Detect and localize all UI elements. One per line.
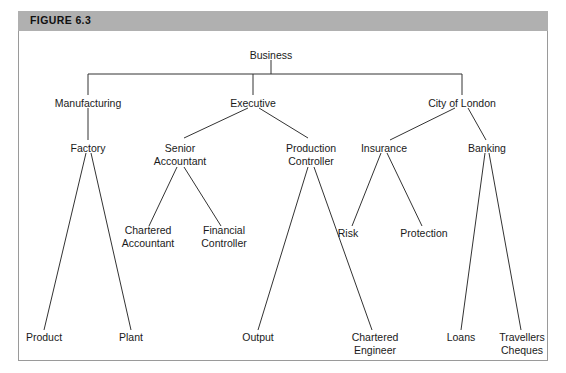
edge-city-to-insurance <box>390 108 455 140</box>
edge-banking-to-travellers-cheques <box>489 153 521 330</box>
node-plant: Plant <box>119 331 143 343</box>
nodes-group: Business Manufacturing Executive City of… <box>26 49 545 356</box>
node-senior-accountant-line2: Accountant <box>154 155 207 167</box>
node-travellers-cheques-line1: Travellers <box>499 331 545 343</box>
edge-banking-to-loans <box>461 153 485 330</box>
node-insurance: Insurance <box>361 142 407 154</box>
node-chartered-accountant-line2: Accountant <box>122 237 175 249</box>
node-manufacturing: Manufacturing <box>55 97 122 109</box>
edge-city-to-banking <box>468 108 486 140</box>
node-city-of-london: City of London <box>428 97 496 109</box>
edge-executive-to-senior-accountant <box>184 108 248 138</box>
node-risk: Risk <box>338 227 359 239</box>
edge-senior-accountant-to-chartered-accountant <box>149 167 177 226</box>
node-factory: Factory <box>70 142 106 154</box>
edge-insurance-to-protection <box>387 153 422 226</box>
edge-executive-to-production-controller <box>259 108 308 138</box>
tree-diagram: Business Manufacturing Executive City of… <box>0 0 566 373</box>
node-output: Output <box>242 331 274 343</box>
node-financial-controller-line2: Controller <box>201 237 247 249</box>
node-travellers-cheques-line2: Cheques <box>501 344 543 356</box>
node-chartered-engineer-line2: Engineer <box>354 344 397 356</box>
node-senior-accountant-line1: Senior <box>165 142 196 154</box>
node-chartered-accountant-line1: Chartered <box>125 224 172 236</box>
node-business: Business <box>250 49 293 61</box>
node-executive: Executive <box>230 97 276 109</box>
node-banking: Banking <box>468 142 506 154</box>
node-loans: Loans <box>447 331 476 343</box>
node-financial-controller-line1: Financial <box>203 224 245 236</box>
edge-production-controller-to-chartered-engineer <box>314 167 372 330</box>
node-product: Product <box>26 331 62 343</box>
edge-factory-to-product <box>44 153 86 330</box>
edge-senior-accountant-to-financial-controller <box>184 167 221 226</box>
node-protection: Protection <box>400 227 447 239</box>
edge-insurance-to-risk <box>352 153 381 226</box>
node-production-controller-line1: Production <box>286 142 336 154</box>
figure-container: FIGURE 6.3 <box>0 0 566 373</box>
edge-production-controller-to-output <box>258 167 308 330</box>
node-production-controller-line2: Controller <box>288 155 334 167</box>
node-chartered-engineer-line1: Chartered <box>352 331 399 343</box>
